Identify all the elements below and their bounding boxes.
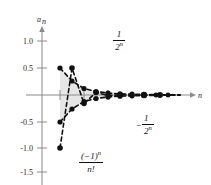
upper-envelope-denominator: 2n [113,42,125,52]
y-tick-label-4: -1.0 [20,144,33,153]
sequence-numerator: (−1)n [79,152,103,161]
x-axis-arrow [190,92,196,98]
sequence-curve [60,68,180,148]
y-axis-arrow [39,26,45,32]
x-axis-label: n [198,91,202,100]
y-tick-label-1: 1.0 [23,37,33,46]
sequence-denominator: n! [79,164,103,174]
lower-envelope-label: − 1 2n [136,114,178,136]
upper-envelope-label: 1 2n [105,30,133,52]
lower-envelope-denominator: 2n [142,126,154,136]
sequence-fraction-bar [79,162,103,163]
y-tick-label-5: -1.5 [20,168,33,177]
sequence-label: (−1)n n! [70,152,112,174]
y-tick-label-3: -0.5 [20,118,33,127]
sequence-squeeze-figure: 1.0 0.5 -0.5 -1.0 -1.5 a n n [0,0,211,185]
y-axis-label: a [37,15,41,24]
upper-envelope-numerator: 1 [113,30,125,39]
lower-envelope-numerator: 1 [142,114,154,123]
y-axis-label-subscript: n [42,17,46,26]
y-tick-label-2: 0.5 [23,64,33,73]
